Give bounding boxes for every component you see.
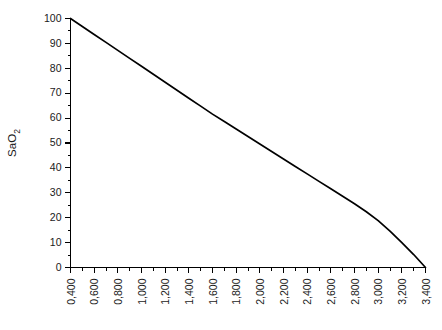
x-tick-label: 2,000 [254,278,266,304]
y-tick-label: 70 [50,86,62,98]
y-tick-label: 30 [50,186,62,198]
x-tick-label: 0,400 [65,278,77,304]
x-tick-label: 1,400 [183,278,195,304]
x-tick-label: 2,200 [278,278,290,304]
y-tick-label: 100 [44,12,62,24]
x-axis-tick-labels: 0,4000,6000,8001,0001,2001,4001,6001,800… [65,278,432,304]
chart-canvas: 0102030405060708090100 0,4000,6000,8001,… [0,0,442,330]
chart-figure: 0102030405060708090100 0,4000,6000,8001,… [0,0,442,330]
y-tick-label: 50 [50,136,62,148]
x-tick-label: 1,000 [136,278,148,304]
x-tick-label: 3,200 [396,278,408,304]
x-tick-label: 2,800 [349,278,361,304]
x-tick-label: 1,800 [230,278,242,304]
y-axis-title: SaO2 [6,129,22,157]
x-tick-label: 2,600 [325,278,337,304]
x-tick-label: 0,800 [112,278,124,304]
y-tick-label: 60 [50,111,62,123]
y-tick-label: 20 [50,211,62,223]
y-tick-label: 40 [50,161,62,173]
data-series-line [71,19,426,268]
y-tick-label: 10 [50,236,62,248]
x-tick-label: 2,400 [301,278,313,304]
y-axis-tick-labels: 0102030405060708090100 [44,12,62,273]
y-tick-label: 90 [50,37,62,49]
y-tick-label: 0 [56,261,62,273]
x-tick-label: 3,000 [372,278,384,304]
x-tick-label: 0,600 [88,278,100,304]
x-tick-label: 1,200 [159,278,171,304]
x-tick-label: 3,400 [420,278,432,304]
y-tick-label: 80 [50,62,62,74]
x-tick-label: 1,600 [207,278,219,304]
